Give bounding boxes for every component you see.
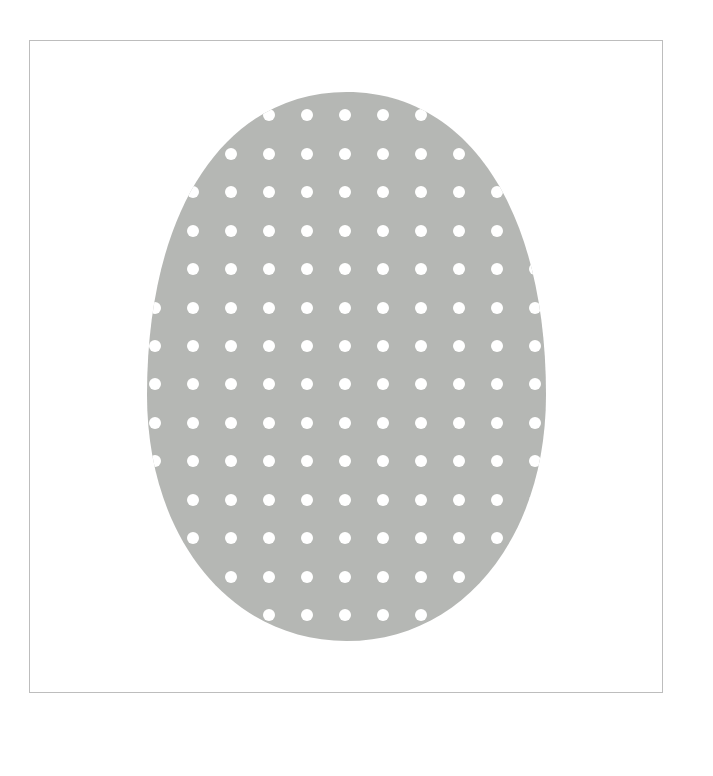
polka-dot (339, 378, 351, 390)
polka-dot (339, 494, 351, 506)
polka-dot (225, 263, 237, 275)
polka-dot (453, 302, 465, 314)
polka-dot (263, 571, 275, 583)
polka-dot (491, 378, 503, 390)
polka-dot (263, 340, 275, 352)
polka-dot (187, 532, 199, 544)
polka-dot (453, 340, 465, 352)
polka-dot (225, 609, 237, 621)
polka-dot (529, 571, 541, 583)
polka-dot (187, 378, 199, 390)
polka-dot (415, 532, 427, 544)
polka-dot (339, 225, 351, 237)
polka-dot (491, 263, 503, 275)
polka-dot (187, 263, 199, 275)
polka-dot (377, 302, 389, 314)
polka-dot (415, 148, 427, 160)
polka-dot (187, 455, 199, 467)
polka-dot (149, 148, 161, 160)
polka-dot (187, 340, 199, 352)
polka-dot (377, 225, 389, 237)
polka-dot (301, 455, 313, 467)
polka-dot (149, 571, 161, 583)
polka-dot (263, 225, 275, 237)
polka-dot (187, 571, 199, 583)
polka-dot (263, 263, 275, 275)
polka-dot (339, 263, 351, 275)
polka-dot (149, 378, 161, 390)
polka-dot (529, 186, 541, 198)
polka-dot (149, 417, 161, 429)
polka-dot (225, 571, 237, 583)
polka-dot (149, 109, 161, 121)
polka-dot (453, 148, 465, 160)
polka-dot (339, 609, 351, 621)
polka-dot (415, 225, 427, 237)
polka-dot (491, 532, 503, 544)
polka-dot (491, 571, 503, 583)
polka-dot (301, 186, 313, 198)
polka-dot (263, 148, 275, 160)
polka-dot (491, 148, 503, 160)
polka-dot (301, 225, 313, 237)
polka-dot (339, 148, 351, 160)
polka-dot (529, 532, 541, 544)
polka-dot (415, 455, 427, 467)
polka-dot (491, 109, 503, 121)
polka-dot (187, 417, 199, 429)
polka-dot (225, 378, 237, 390)
polka-dot (301, 532, 313, 544)
polka-dot (263, 532, 275, 544)
polka-dot (149, 302, 161, 314)
polka-dot (415, 263, 427, 275)
polka-dot (377, 263, 389, 275)
polka-dot (263, 417, 275, 429)
polka-dot (529, 340, 541, 352)
polka-dot (225, 494, 237, 506)
polka-dot (491, 302, 503, 314)
polka-dot (453, 532, 465, 544)
polka-dot (377, 609, 389, 621)
polka-dot (301, 378, 313, 390)
polka-dot (225, 455, 237, 467)
polka-dot (377, 532, 389, 544)
polka-dot (225, 532, 237, 544)
polka-dot (149, 340, 161, 352)
polka-dot (263, 378, 275, 390)
polka-dot (529, 148, 541, 160)
polka-dot (377, 148, 389, 160)
polka-dot (187, 109, 199, 121)
polka-dot (453, 263, 465, 275)
polka-dot (453, 225, 465, 237)
egg-illustration (0, 0, 713, 776)
polka-dot (491, 494, 503, 506)
polka-dot (263, 302, 275, 314)
polka-dot (301, 417, 313, 429)
polka-dot (529, 263, 541, 275)
polka-dot (339, 109, 351, 121)
polka-dot (453, 455, 465, 467)
polka-dot (491, 186, 503, 198)
polka-dot (415, 609, 427, 621)
polka-dot (377, 494, 389, 506)
polka-dot (339, 532, 351, 544)
polka-dot (415, 417, 427, 429)
polka-dot (225, 302, 237, 314)
polka-dot (529, 109, 541, 121)
polka-dot (377, 571, 389, 583)
polka-dot (187, 494, 199, 506)
polka-dot (453, 609, 465, 621)
polka-dot (377, 109, 389, 121)
polka-dot (149, 186, 161, 198)
polka-dot (529, 494, 541, 506)
polka-dot (187, 148, 199, 160)
polka-dot (377, 417, 389, 429)
polka-dot (377, 378, 389, 390)
polka-dot (339, 417, 351, 429)
polka-dot (339, 455, 351, 467)
polka-dot (263, 494, 275, 506)
polka-dot (225, 340, 237, 352)
polka-dot (187, 302, 199, 314)
polka-dot (415, 340, 427, 352)
polka-dot (377, 186, 389, 198)
